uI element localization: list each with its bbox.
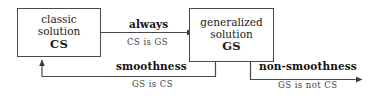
node-cs-abbr: CS — [50, 38, 68, 51]
node-gs-line1: generalized — [200, 17, 262, 29]
edge-label-smoothness: smoothness — [116, 60, 187, 72]
diagram-canvas: classic solution CS generalized solution… — [0, 0, 369, 99]
node-gs-abbr: GS — [222, 40, 241, 53]
node-classic-solution: classic solution CS — [17, 8, 101, 57]
edge-label-non-smoothness: non-smoothness — [259, 60, 357, 72]
node-generalized-solution: generalized solution GS — [189, 8, 274, 62]
edge-label-always: always — [129, 18, 168, 30]
edge-sublabel-always: CS is GS — [127, 37, 168, 47]
edge-sublabel-smoothness: GS is CS — [132, 79, 173, 89]
edge-sublabel-non-smoothness: GS is not CS — [278, 80, 338, 90]
